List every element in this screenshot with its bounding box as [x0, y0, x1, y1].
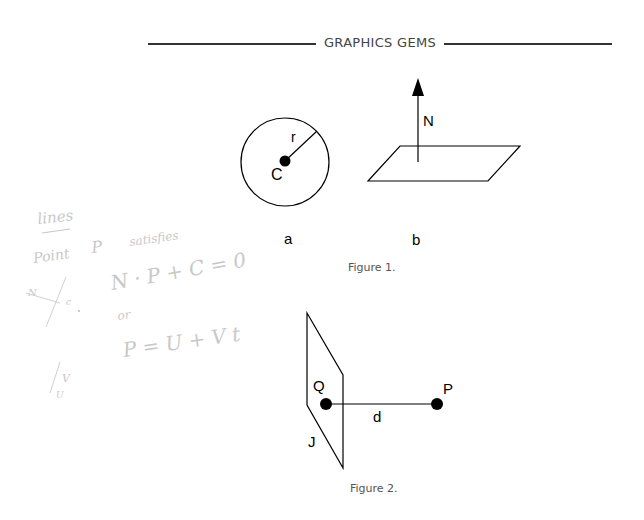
note-word-satisfies: satisfies	[128, 228, 179, 249]
note-equation-plane: N · P + C = 0	[108, 247, 248, 295]
radius-line	[285, 131, 317, 161]
label-J: J	[308, 433, 316, 450]
note-word-point: Point	[31, 245, 71, 266]
note-sketch-V: V	[62, 372, 71, 385]
note-or: or	[116, 307, 132, 323]
note-sketch-N: N	[27, 287, 38, 298]
note-word-p: P	[89, 237, 103, 257]
arrowhead-icon	[412, 78, 424, 96]
figure2-diagram: Q P d J	[307, 313, 453, 468]
center-point	[280, 156, 291, 167]
panel-b-label: b	[412, 231, 420, 248]
label-d: d	[373, 408, 381, 425]
plane-parallelogram	[368, 146, 520, 181]
figures-canvas: r C a N b Q P d J lines Point	[0, 0, 644, 520]
figure2-caption: Figure 2.	[350, 482, 398, 495]
book-page: GRAPHICS GEMS r C a N b Q P d	[0, 0, 644, 520]
center-label: C	[271, 166, 283, 183]
label-P: P	[443, 380, 453, 397]
figure1-caption: Figure 1.	[348, 261, 396, 274]
figure1-panel-a-sphere: r C a	[241, 118, 329, 247]
note-equation-line: P = U + V t	[120, 322, 242, 362]
note-sketch-dot	[78, 310, 80, 312]
label-Q: Q	[313, 377, 325, 394]
radius-label: r	[291, 129, 296, 145]
note-heading-underline	[42, 229, 70, 233]
normal-label: N	[423, 112, 434, 129]
note-sketch-U: U	[56, 390, 64, 400]
point-Q	[320, 398, 332, 410]
panel-a-label: a	[284, 230, 293, 247]
note-heading: lines	[37, 206, 75, 228]
figure1-panel-b-plane: N b	[368, 78, 520, 248]
handwritten-notes: lines Point P satisfies N · P + C = 0 or…	[26, 206, 248, 400]
note-sketch-c: c	[66, 297, 71, 307]
note-vector-arrow	[50, 362, 60, 393]
point-P	[431, 398, 443, 410]
